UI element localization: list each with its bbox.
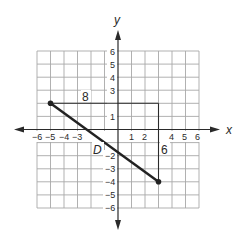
x-axis-left-arrow-icon (14, 127, 24, 133)
coordinate-plane: y x −6 −5 −4 −3 1 2 4 5 6 6 5 4 3 1 −2 −… (0, 0, 248, 238)
x-tick: −5 (45, 132, 55, 142)
x-axis-right-arrow-icon (210, 127, 220, 133)
horizontal-length-label: 8 (82, 90, 89, 104)
y-tick: −5 (105, 190, 115, 200)
y-tick: 6 (110, 47, 115, 57)
x-tick: 6 (195, 132, 200, 142)
y-tick: 5 (110, 60, 115, 70)
y-tick: −3 (105, 164, 115, 174)
y-axis-up-arrow-icon (115, 30, 121, 40)
x-tick: 1 (129, 132, 134, 142)
x-tick: 5 (182, 132, 187, 142)
y-tick: 4 (110, 73, 115, 83)
x-tick: −6 (32, 132, 42, 142)
x-axis-label: x (225, 123, 233, 137)
x-tick: −3 (72, 132, 82, 142)
y-tick: −6 (105, 203, 115, 213)
y-tick: 1 (110, 112, 115, 122)
x-tick: −4 (59, 132, 69, 142)
y-axis-down-arrow-icon (115, 220, 121, 230)
y-tick: −4 (105, 177, 115, 187)
x-tick: 4 (169, 132, 174, 142)
y-tick: −2 (105, 151, 115, 161)
distance-label: D (93, 143, 102, 157)
y-tick: 3 (110, 86, 115, 96)
point-a (48, 101, 54, 107)
point-b (156, 179, 162, 185)
vertical-length-label: 6 (161, 143, 168, 157)
y-axis-label: y (113, 13, 121, 27)
x-tick: 2 (142, 132, 147, 142)
